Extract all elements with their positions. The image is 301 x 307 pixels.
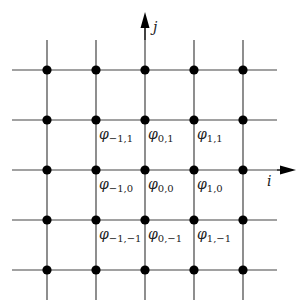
axes: j i [141, 12, 297, 189]
grid-node [140, 115, 149, 124]
phi-node-label: φ1,−1 [197, 226, 231, 244]
grid-node [91, 215, 100, 224]
phi-node-label: φ−1,−1 [99, 226, 141, 244]
i-arrowhead-icon [280, 166, 296, 175]
grid-node [42, 265, 51, 274]
grid-diagram: j i φ−1,1φ0,1φ1,1φ−1,0φ0,0φ1,0φ−1,−1φ0,−… [0, 0, 301, 307]
grid-node [91, 265, 100, 274]
grid-node [140, 265, 149, 274]
grid-node [42, 215, 51, 224]
grid-node [91, 115, 100, 124]
grid-node [189, 165, 198, 174]
j-arrowhead-icon [141, 12, 150, 28]
j-axis-label: j [150, 19, 158, 35]
grid-node [238, 215, 247, 224]
grid-node [140, 215, 149, 224]
phi-node-label: φ1,0 [197, 176, 223, 194]
phi-node-label: φ0,0 [148, 176, 174, 194]
grid-node [91, 165, 100, 174]
grid-node [42, 65, 51, 74]
grid-node [189, 215, 198, 224]
grid-node [140, 165, 149, 174]
grid-node [238, 65, 247, 74]
phi-node-label: φ1,1 [197, 126, 223, 144]
phi-node-label: φ−1,0 [99, 176, 133, 194]
node-labels: φ−1,1φ0,1φ1,1φ−1,0φ0,0φ1,0φ−1,−1φ0,−1φ1,… [99, 126, 231, 244]
phi-node-label: φ0,−1 [148, 226, 182, 244]
grid-node [91, 65, 100, 74]
grid-node [238, 165, 247, 174]
phi-node-label: φ0,1 [148, 126, 174, 144]
grid-node [238, 265, 247, 274]
grid-node [189, 115, 198, 124]
grid-node [42, 115, 51, 124]
grid-node [140, 65, 149, 74]
i-axis-label: i [267, 173, 271, 189]
phi-node-label: φ−1,1 [99, 126, 133, 144]
grid-node [238, 115, 247, 124]
grid-node [189, 265, 198, 274]
grid-node [42, 165, 51, 174]
grid-node [189, 65, 198, 74]
